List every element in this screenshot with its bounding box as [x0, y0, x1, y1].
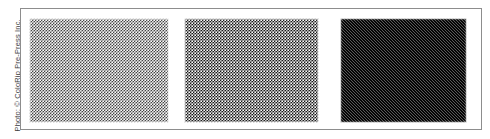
- swatch-edge-feather: [340, 18, 467, 123]
- photo-credit-container: Photo: © ColoRip Pre-Press Inc.: [0, 0, 20, 139]
- dark-halftone-swatch: dark halftone screen: [340, 18, 467, 123]
- medium-halftone-swatch: medium halftone screen: [184, 18, 319, 123]
- halftone-figure: Photo: © ColoRip Pre-Press Inc. light ha…: [0, 0, 490, 139]
- light-halftone-swatch: light halftone screen: [29, 18, 169, 123]
- swatch-edge-feather: [29, 18, 169, 123]
- swatch-edge-feather: [184, 18, 319, 123]
- halftone-swatch-row: light halftone screen medium halftone sc…: [21, 9, 481, 129]
- photo-frame-border: light halftone screen medium halftone sc…: [20, 8, 482, 130]
